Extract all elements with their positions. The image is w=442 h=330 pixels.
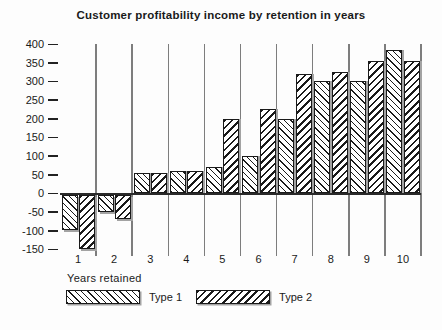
x-tick-label-4: 4 (168, 252, 204, 266)
bar-type-1-year-5 (206, 167, 222, 193)
y-tick-mark (48, 44, 58, 46)
chart-title: Customer profitability income by retenti… (0, 9, 442, 21)
x-tick-label-3: 3 (132, 252, 168, 266)
y-tick-label-200: 200 (0, 112, 44, 126)
x-tick-label-9: 9 (349, 252, 385, 266)
bar-type-1-year-3 (134, 173, 150, 194)
legend: Type 1Type 2 (66, 290, 326, 304)
y-tick-mark (48, 174, 58, 176)
x-tick-label-7: 7 (277, 252, 313, 266)
bar-type-1-year-8 (314, 81, 330, 193)
gridline (95, 44, 97, 256)
y-tick-mark (48, 230, 58, 232)
gridline (240, 44, 242, 256)
y-tick-label--50: -50 (0, 205, 44, 219)
y-tick-mark (48, 193, 58, 195)
y-tick-label-300: 300 (0, 74, 44, 88)
x-axis-title: Years retained (67, 272, 142, 284)
legend-label-type-1: Type 1 (149, 291, 182, 303)
y-tick-label-50: 50 (0, 168, 44, 182)
zero-baseline (60, 193, 421, 195)
y-tick-label-350: 350 (0, 56, 44, 70)
x-tick-label-10: 10 (385, 252, 421, 266)
bar-type-1-year-7 (278, 119, 294, 194)
chart-figure: Customer profitability income by retenti… (0, 0, 442, 330)
y-tick-mark (48, 81, 58, 83)
bar-type-1-year-2 (98, 195, 114, 212)
bar-type-2-year-9 (368, 61, 384, 193)
bar-type-1-year-9 (350, 81, 366, 193)
y-tick-label-0: 0 (0, 186, 44, 200)
y-tick-mark (48, 137, 58, 139)
y-tick-mark (48, 99, 58, 101)
bar-type-2-year-7 (296, 74, 312, 193)
y-tick-label--100: -100 (0, 224, 44, 238)
gridline (420, 44, 422, 256)
x-tick-label-5: 5 (204, 252, 240, 266)
bar-type-2-year-3 (151, 173, 167, 194)
y-tick-label-150: 150 (0, 130, 44, 144)
plot-area (60, 44, 421, 256)
bar-type-2-year-4 (187, 171, 203, 193)
gridline (204, 44, 206, 256)
bar-type-2-year-1 (79, 195, 95, 249)
bar-type-1-year-4 (170, 171, 186, 193)
y-tick-label-250: 250 (0, 93, 44, 107)
bar-type-1-year-6 (242, 156, 258, 193)
x-tick-label-6: 6 (240, 252, 276, 266)
y-tick-label-400: 400 (0, 37, 44, 51)
y-tick-label-100: 100 (0, 149, 44, 163)
legend-swatch-type-2 (196, 290, 270, 304)
bar-type-1-year-1 (62, 195, 78, 231)
bar-type-2-year-6 (260, 109, 276, 193)
bar-type-1-year-10 (386, 50, 402, 194)
x-tick-label-2: 2 (96, 252, 132, 266)
bar-type-2-year-8 (332, 72, 348, 193)
x-axis: 12345678910 (60, 252, 421, 266)
x-tick-label-8: 8 (313, 252, 349, 266)
gridline (168, 44, 170, 256)
bar-type-2-year-2 (115, 195, 131, 220)
bar-type-2-year-5 (223, 119, 239, 194)
legend-label-type-2: Type 2 (279, 291, 312, 303)
bar-type-2-year-10 (404, 61, 420, 193)
legend-swatch-type-1 (66, 290, 140, 304)
y-tick-mark (48, 249, 58, 251)
x-tick-label-1: 1 (60, 252, 96, 266)
y-tick-mark (48, 118, 58, 120)
y-tick-label--150: -150 (0, 242, 44, 256)
y-tick-mark (48, 211, 58, 213)
y-tick-mark (48, 155, 58, 157)
y-tick-mark (48, 62, 58, 64)
gridline (131, 44, 133, 256)
